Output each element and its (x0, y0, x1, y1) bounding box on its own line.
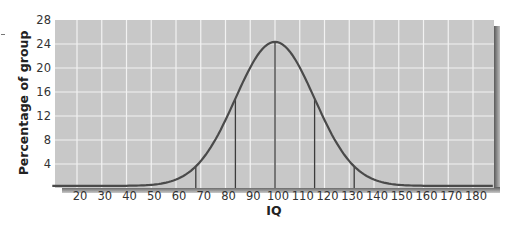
x-tick-label: 120 (317, 189, 339, 203)
x-tick-label: 70 (196, 189, 211, 203)
x-tick-label: 110 (292, 189, 314, 203)
y-tick-label: 8 (44, 133, 51, 147)
y-tick-label: 28 (36, 13, 51, 27)
y-tick-label: 16 (36, 85, 51, 99)
x-tick-label: 150 (391, 189, 413, 203)
x-tick-label: 90 (246, 189, 261, 203)
x-tick-label: 180 (465, 189, 487, 203)
y-axis-ticks: 481216202428 (36, 13, 51, 171)
normal-curve-chart: 481216202428 203040506070809010011012013… (0, 0, 513, 232)
x-tick-label: 140 (366, 189, 388, 203)
x-tick-label: 100 (267, 189, 289, 203)
x-tick-label: 160 (416, 189, 438, 203)
x-tick-label: 80 (221, 189, 236, 203)
y-tick-label: 4 (44, 157, 51, 171)
y-tick-label: 20 (36, 61, 51, 75)
x-axis-title: IQ (266, 203, 281, 218)
x-tick-label: 20 (73, 189, 88, 203)
y-tick-label: 12 (36, 109, 51, 123)
plot-shadow-right (494, 26, 500, 192)
x-tick-label: 40 (122, 189, 137, 203)
y-tick-label: 24 (36, 37, 51, 51)
y-axis-title: Percentage of group (16, 31, 31, 176)
x-tick-label: 30 (97, 189, 112, 203)
x-tick-label: 130 (341, 189, 363, 203)
x-tick-label: 170 (440, 189, 462, 203)
x-axis-ticks: 2030405060708090100110120130140150160170… (73, 189, 487, 203)
x-tick-label: 60 (172, 189, 187, 203)
x-tick-label: 50 (147, 189, 162, 203)
